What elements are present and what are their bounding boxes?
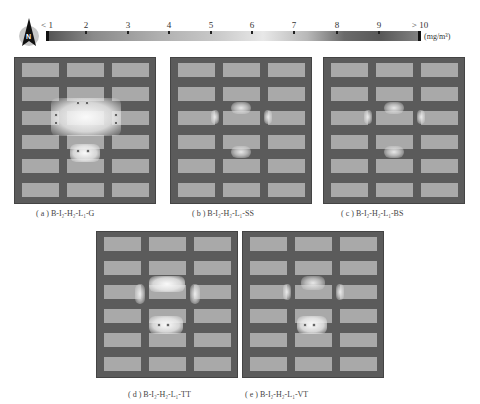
building-block — [250, 357, 287, 371]
building-block — [268, 63, 305, 77]
building-block — [104, 237, 141, 251]
emission-source-dot — [76, 149, 80, 153]
emission-source-dot — [86, 149, 90, 153]
north-arrow: N — [17, 18, 43, 46]
caption-e: ( e ) B-I₂-H₂-L₁-VT — [245, 390, 308, 399]
tick-label: 6 — [250, 20, 255, 30]
concentration-hotspot — [336, 284, 344, 300]
building-block — [250, 285, 287, 299]
building-block — [112, 183, 149, 197]
emission-source-dot — [54, 121, 58, 125]
scale-unit: (mg/m³) — [424, 32, 450, 41]
caption-a: ( a ) B-I₂-H₂-L₁-G — [36, 209, 94, 218]
emission-source-dot — [85, 101, 89, 105]
building-block — [178, 87, 215, 101]
building-block — [268, 159, 305, 173]
caption-b: ( b ) B-I₂-H₂-L₁-SS — [192, 209, 254, 218]
tick-mark — [127, 31, 129, 34]
building-block — [331, 159, 368, 173]
emission-source-dot — [76, 101, 80, 105]
building-block — [194, 309, 231, 323]
building-block — [112, 135, 149, 149]
building-block — [223, 87, 260, 101]
concentration-scale-bar: < 1 2 3 4 5 6 7 8 9 > 10 — [46, 22, 422, 46]
building-block — [421, 111, 458, 125]
emission-source-dot — [54, 113, 58, 117]
north-arrow-icon: N — [17, 18, 43, 48]
building-block — [421, 135, 458, 149]
tick-label: 2 — [84, 20, 89, 30]
building-block — [340, 357, 377, 371]
concentration-hotspot — [283, 284, 291, 300]
building-block — [268, 183, 305, 197]
panel-b-map — [170, 57, 312, 204]
building-block — [22, 183, 59, 197]
tick-label: 8 — [335, 20, 340, 30]
building-block — [340, 333, 377, 347]
caption-d: ( d ) B-I₂-H₂-L₁-TT — [128, 390, 191, 399]
building-block — [149, 333, 186, 347]
tick-label: < 1 — [41, 20, 53, 30]
svg-text:N: N — [26, 33, 31, 40]
tick-label: 5 — [209, 20, 214, 30]
concentration-hotspot — [211, 110, 219, 124]
concentration-hotspot — [231, 146, 251, 158]
tick-label: 7 — [292, 20, 297, 30]
panel-a-map — [14, 57, 156, 204]
panel-c-map — [323, 57, 465, 204]
concentration-hotspot — [190, 284, 200, 304]
building-block — [331, 63, 368, 77]
building-block — [340, 261, 377, 275]
concentration-hotspot — [135, 284, 145, 304]
building-block — [331, 87, 368, 101]
tick-label: 3 — [126, 20, 131, 30]
building-block — [22, 135, 59, 149]
tick-mark — [210, 31, 212, 34]
building-block — [340, 285, 377, 299]
caption-c: ( c ) B-I₂-H₂-L₁-BS — [341, 209, 403, 218]
building-block — [104, 261, 141, 275]
building-block — [340, 237, 377, 251]
building-block — [223, 159, 260, 173]
building-block — [223, 183, 260, 197]
building-block — [104, 357, 141, 371]
concentration-hotspot — [364, 110, 372, 124]
building-block — [194, 333, 231, 347]
emission-source-dot — [114, 121, 118, 125]
emission-source-dot — [312, 323, 316, 327]
building-block — [295, 261, 332, 275]
building-block — [340, 309, 377, 323]
tick-mark — [293, 31, 295, 34]
emission-source-dot — [166, 323, 170, 327]
building-block — [268, 87, 305, 101]
building-block — [421, 159, 458, 173]
concentration-hotspot — [384, 102, 404, 114]
building-block — [250, 333, 287, 347]
building-block — [295, 333, 332, 347]
emission-source-dot — [303, 323, 307, 327]
building-block — [223, 63, 260, 77]
building-block — [376, 87, 413, 101]
tick-mark — [85, 31, 87, 34]
tick-label: > 10 — [412, 20, 428, 30]
building-block — [194, 237, 231, 251]
building-block — [178, 63, 215, 77]
panel-d-map — [96, 231, 238, 378]
concentration-hotspot — [384, 146, 404, 158]
emission-source-dot — [114, 113, 118, 117]
building-block — [421, 87, 458, 101]
tick-mark — [336, 31, 338, 34]
building-block — [250, 261, 287, 275]
tick-mark — [251, 31, 253, 34]
building-block — [268, 135, 305, 149]
building-block — [67, 183, 104, 197]
building-block — [178, 135, 215, 149]
building-block — [331, 183, 368, 197]
building-block — [376, 159, 413, 173]
building-block — [376, 63, 413, 77]
building-block — [250, 309, 287, 323]
concentration-hotspot — [231, 102, 251, 114]
building-block — [178, 159, 215, 173]
building-block — [67, 63, 104, 77]
building-block — [295, 237, 332, 251]
